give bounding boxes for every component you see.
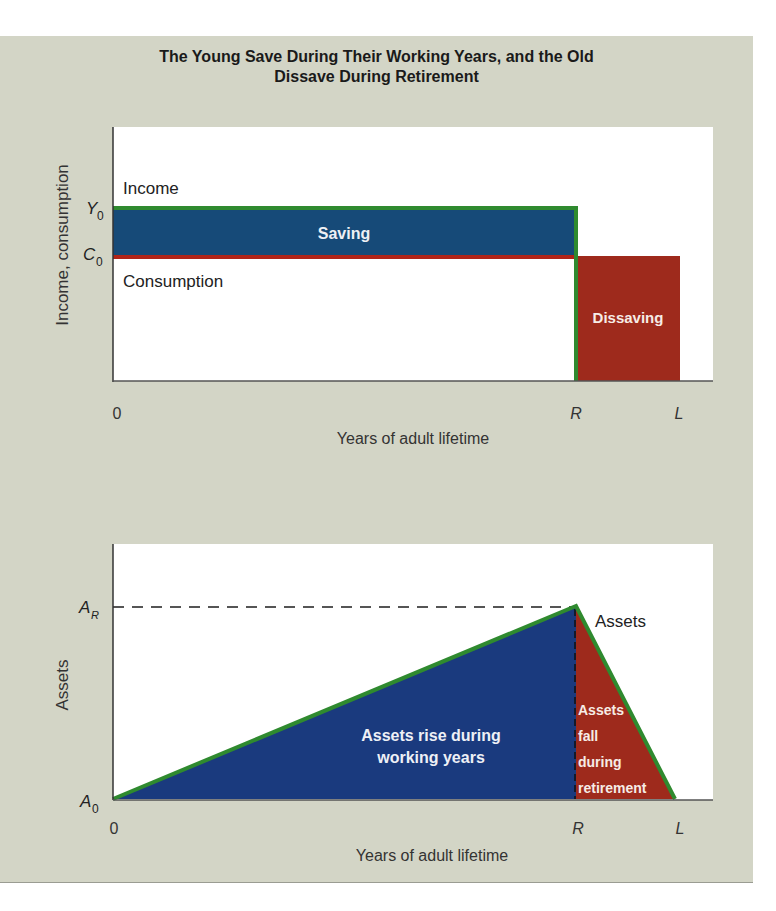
ar-tick-main: A xyxy=(78,598,90,617)
fall-label-line-4: retirement xyxy=(578,780,647,796)
bottom-x-tick-l: L xyxy=(676,820,685,837)
ar-tick-sub: R xyxy=(91,609,99,621)
top-x-tick-0: 0 xyxy=(113,405,122,422)
a0-tick-sub: 0 xyxy=(92,802,99,816)
rise-label-line-1: Assets rise during xyxy=(361,727,501,744)
top-x-tick-r: R xyxy=(570,405,582,422)
bottom-y-axis-label: Assets xyxy=(53,659,72,710)
top-x-tick-l: L xyxy=(675,405,684,422)
bottom-x-axis-label: Years of adult lifetime xyxy=(356,847,508,864)
saving-label: Saving xyxy=(318,225,370,242)
fall-label-line-1: Assets xyxy=(578,702,624,718)
a0-tick-main: A xyxy=(79,792,91,811)
bottom-x-tick-r: R xyxy=(572,820,584,837)
income-label: Income xyxy=(123,179,179,198)
y0-tick-sub: 0 xyxy=(97,209,104,223)
top-y-axis-label: Income, consumption xyxy=(53,164,72,326)
income-consumption-chart: Income Consumption Saving Dissaving Y 0 … xyxy=(53,127,713,447)
fall-label-line-2: fall xyxy=(578,728,598,744)
charts-canvas: Income Consumption Saving Dissaving Y 0 … xyxy=(0,0,776,911)
dissaving-label: Dissaving xyxy=(593,309,664,326)
assets-label: Assets xyxy=(595,612,646,631)
bottom-x-tick-0: 0 xyxy=(110,820,119,837)
top-x-axis-label: Years of adult lifetime xyxy=(337,430,489,447)
c0-tick-sub: 0 xyxy=(96,255,103,269)
c0-tick-main: C xyxy=(83,245,96,264)
consumption-label: Consumption xyxy=(123,272,223,291)
fall-label-line-3: during xyxy=(578,754,622,770)
assets-chart: Assets Assets rise during working years … xyxy=(53,544,713,864)
rise-label-line-2: working years xyxy=(376,749,485,766)
